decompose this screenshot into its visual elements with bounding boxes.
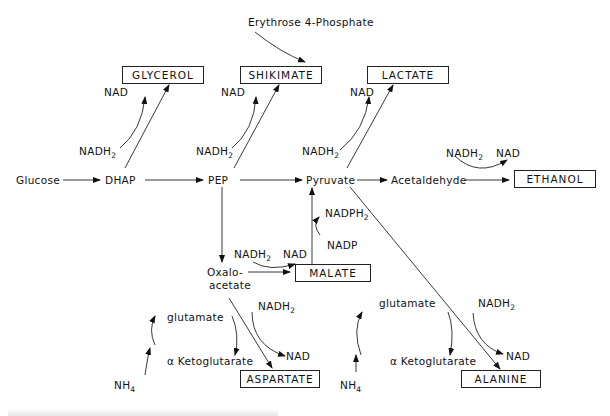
node-oxaloacetate-line1: Oxalo- bbox=[207, 267, 243, 278]
cofactor-nad-lactate: NAD bbox=[350, 87, 374, 98]
node-pyruvate: Pyruvate bbox=[306, 175, 355, 186]
cofactor-nad-aspartate: NAD bbox=[286, 351, 310, 362]
node-oxaloacetate-line2: acetate bbox=[209, 280, 251, 291]
cofactor-nad-ethanol: NAD bbox=[496, 148, 520, 159]
cofactor-nad-alanine: NAD bbox=[506, 351, 530, 362]
product-aspartate: ASPARTATE bbox=[240, 370, 320, 388]
node-dhap: DHAP bbox=[105, 175, 136, 186]
node-acetaldehyde: Acetaldehyde bbox=[391, 175, 466, 186]
cropped-caption bbox=[8, 409, 278, 416]
cofactor-nh4-alanine: NH4 bbox=[340, 380, 361, 394]
cofactor-nadh2-lactate: NADH2 bbox=[302, 146, 339, 160]
cofactor-ketoglutarate-aspartate: α Ketoglutarate bbox=[167, 356, 253, 367]
cofactor-nad-glycerol: NAD bbox=[104, 87, 128, 98]
cofactor-nad-malate: NAD bbox=[283, 249, 307, 260]
cofactor-glutamate-alanine: glutamate bbox=[379, 298, 436, 309]
product-glycerol: GLYCEROL bbox=[122, 66, 204, 84]
cofactor-nadph2: NADPH2 bbox=[325, 208, 369, 222]
cofactor-nadh2-glycerol: NADH2 bbox=[79, 146, 116, 160]
cofactor-ketoglutarate-alanine: α Ketoglutarate bbox=[390, 356, 476, 367]
metabolic-pathway-diagram: Erythrose 4-Phosphate GLYCEROL SHIKIMATE… bbox=[0, 0, 610, 416]
cofactor-nadh2-aspartate: NADH2 bbox=[258, 301, 295, 315]
product-lactate: LACTATE bbox=[367, 66, 449, 84]
node-pep: PEP bbox=[208, 175, 228, 186]
product-malate: MALATE bbox=[295, 264, 371, 282]
cofactor-nadh2-malate: NADH2 bbox=[234, 249, 271, 263]
cofactor-nadh2-ethanol: NADH2 bbox=[446, 148, 483, 162]
cofactor-nh4-aspartate: NH4 bbox=[114, 380, 135, 394]
node-glucose: Glucose bbox=[16, 175, 60, 186]
cofactor-nadp: NADP bbox=[327, 240, 358, 251]
product-shikimate: SHIKIMATE bbox=[240, 66, 322, 84]
cofactor-nad-shikimate: NAD bbox=[221, 87, 245, 98]
cofactor-nadh2-alanine: NADH2 bbox=[478, 298, 515, 312]
cofactor-glutamate-aspartate: glutamate bbox=[167, 312, 224, 323]
product-ethanol: ETHANOL bbox=[514, 170, 596, 188]
arrow-pyruvate-alanine bbox=[350, 187, 500, 369]
cofactor-nadh2-shikimate: NADH2 bbox=[196, 146, 233, 160]
product-alanine: ALANINE bbox=[461, 370, 541, 388]
arrow-erythrose-shikimate bbox=[255, 32, 305, 62]
node-erythrose-4-phosphate: Erythrose 4-Phosphate bbox=[248, 17, 374, 28]
arrow-dhap-glycerol bbox=[125, 85, 169, 168]
